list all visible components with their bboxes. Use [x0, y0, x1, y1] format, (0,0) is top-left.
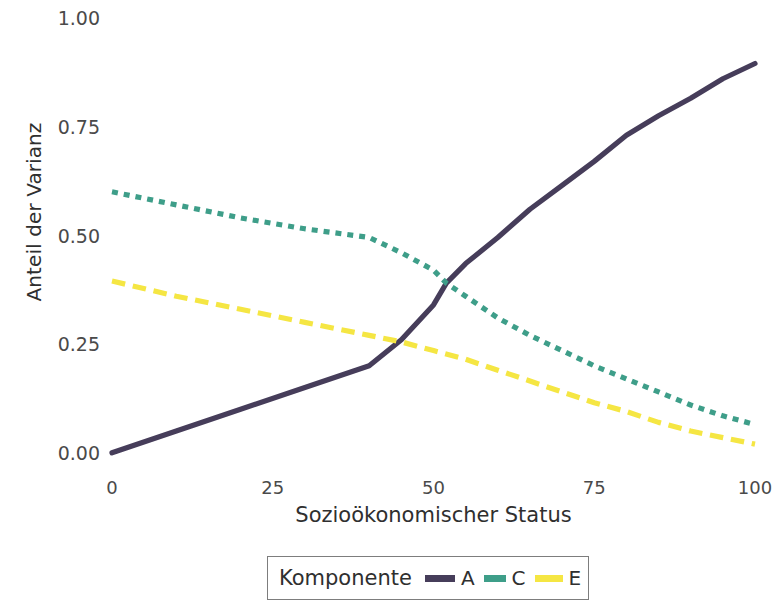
legend-entry-A[interactable]: A — [425, 566, 475, 590]
legend-swatch-C-icon — [484, 575, 506, 582]
legend-entry-E[interactable]: E — [535, 566, 582, 590]
legend-label-E: E — [569, 566, 582, 590]
legend-label-A: A — [461, 566, 475, 590]
legend: Komponente ACE — [267, 556, 589, 600]
legend-swatch-E-icon — [535, 575, 563, 582]
legend-entry-C[interactable]: C — [484, 566, 526, 590]
legend-swatch-A-icon — [425, 575, 455, 582]
legend-label-C: C — [512, 566, 526, 590]
legend-title: Komponente — [279, 566, 412, 590]
